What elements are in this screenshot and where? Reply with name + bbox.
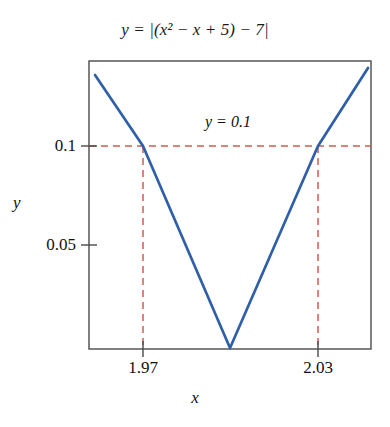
chart-figure: y = |(x² − x + 5) − 7| 0.1 0.05 1.97 2.0…	[0, 0, 390, 427]
x-tick-label-1-97: 1.97	[108, 358, 178, 378]
threshold-annotation: y = 0.1	[205, 113, 251, 131]
y-axis-label: y	[13, 193, 21, 213]
x-axis-label: x	[0, 388, 390, 408]
x-tick-label-2-03: 2.03	[283, 358, 353, 378]
threshold-annotation-text: y = 0.1	[205, 113, 251, 130]
y-tick-label-0-1: 0.1	[24, 136, 76, 156]
y-tick-label-0-05: 0.05	[14, 235, 76, 255]
plot-frame	[89, 61, 371, 349]
